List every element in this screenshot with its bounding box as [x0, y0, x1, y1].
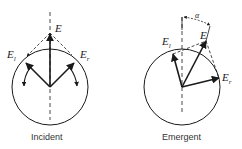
incident-dashed-right: [50, 33, 72, 55]
incident-diagram: [12, 12, 88, 125]
incident-caption: Incident: [31, 132, 63, 142]
emergent-caption: Emergent: [162, 132, 201, 142]
incident-rotation-right: [70, 68, 77, 86]
emergent-el-arrow: [173, 54, 182, 87]
emergent-label-alpha: α: [195, 12, 199, 20]
incident-label-e: E: [55, 23, 62, 34]
emergent-label-er: Er: [222, 72, 231, 86]
emergent-e-arrow: [182, 41, 206, 87]
diagram-canvas: [0, 0, 242, 149]
incident-label-el: El: [7, 49, 16, 63]
incident-er-arrow: [50, 63, 74, 87]
emergent-er-arrow: [182, 78, 219, 87]
incident-dashed-left: [27, 33, 50, 56]
incident-label-er: Er: [80, 49, 89, 63]
incident-el-arrow: [26, 63, 50, 87]
emergent-diagram: [144, 17, 220, 125]
emergent-label-e: E: [200, 30, 207, 41]
emergent-label-el: El: [162, 36, 171, 50]
incident-rotation-left: [24, 68, 30, 86]
